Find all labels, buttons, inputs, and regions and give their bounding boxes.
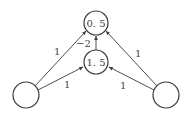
weight-hidden-output: −2 xyxy=(76,38,91,49)
node-input-right xyxy=(153,82,179,108)
weight-left-output: 1 xyxy=(54,46,60,57)
weight-right-hidden: 1 xyxy=(120,80,126,91)
node-input-left xyxy=(13,82,39,108)
network-diagram: 1 1 1 1 −2 0. 5 1. 5 xyxy=(0,0,188,117)
edge-right-to-output xyxy=(106,31,157,86)
weight-left-hidden: 1 xyxy=(64,79,70,90)
weight-right-output: 1 xyxy=(135,48,141,59)
edge-right-to-hidden xyxy=(109,67,154,90)
node-hidden: 1. 5 xyxy=(84,50,108,74)
node-hidden-label: 1. 5 xyxy=(86,57,105,68)
node-output: 0. 5 xyxy=(84,11,108,35)
edge-left-to-hidden xyxy=(38,67,83,90)
node-output-label: 0. 5 xyxy=(86,18,105,29)
